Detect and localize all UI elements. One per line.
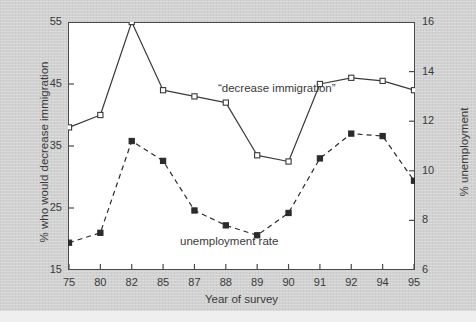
x-tick-85: 85 (148, 276, 178, 288)
y-tick-right-14: 14 (422, 65, 444, 77)
y-tick-right-12: 12 (422, 114, 444, 126)
x-tick-82: 82 (117, 276, 147, 288)
y-tick-right-16: 16 (422, 15, 444, 27)
y-tick-left-55: 55 (40, 15, 62, 27)
x-axis-title: Year of survey (68, 293, 415, 305)
y-tick-left-45: 45 (40, 77, 62, 89)
figure-footer-strip (0, 311, 476, 322)
y-tick-left-35: 35 (40, 139, 62, 151)
y-axis-left-title: % who would decrease immigration (38, 22, 50, 282)
x-tick-87: 87 (179, 276, 209, 288)
chart-figure: % who would decrease immigration % unemp… (0, 0, 476, 322)
series-annotation-0: “decrease immigration” (218, 82, 336, 94)
y-tick-right-8: 8 (422, 213, 444, 225)
y-tick-left-15: 15 (40, 263, 62, 275)
x-tick-75: 75 (54, 276, 84, 288)
plot-canvas (68, 22, 415, 270)
series-annotation-1: unemployment rate (180, 235, 278, 247)
x-tick-92: 92 (336, 276, 366, 288)
x-tick-89: 89 (242, 276, 272, 288)
x-tick-91: 91 (305, 276, 335, 288)
y-tick-left-25: 25 (40, 201, 62, 213)
x-tick-90: 90 (274, 276, 304, 288)
y-tick-right-10: 10 (422, 164, 444, 176)
y-tick-right-6: 6 (422, 263, 444, 275)
x-tick-88: 88 (211, 276, 241, 288)
x-tick-95: 95 (399, 276, 429, 288)
x-tick-80: 80 (85, 276, 115, 288)
y-axis-right-title: % unemployment (458, 42, 470, 262)
x-tick-94: 94 (368, 276, 398, 288)
